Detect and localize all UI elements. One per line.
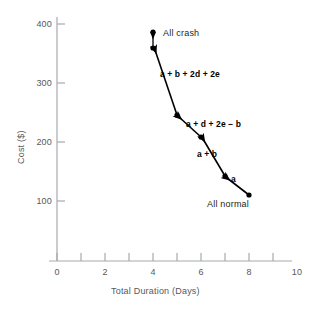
y-axis-title: Cost ($): [16, 130, 26, 164]
y-tick-label-200: 200: [26, 137, 52, 147]
cost-vs-duration-chart: 400 300 200 100 0 2 4 6 8 10 Cost ($) To…: [0, 0, 313, 312]
marker-p4: [222, 173, 227, 178]
annotation-all-normal: All normal: [207, 199, 249, 209]
axis-lines: [49, 17, 292, 261]
marker-p3: [198, 134, 203, 139]
y-tick-label-100: 100: [26, 196, 52, 206]
marker-p2: [174, 112, 179, 117]
marker-all-normal: [246, 192, 251, 197]
annotation-all-crash: All crash: [163, 28, 199, 38]
x-tick-label-6: 6: [191, 267, 211, 277]
annotation-segment-3: a + b: [197, 149, 217, 159]
x-tick-label-2: 2: [95, 267, 115, 277]
x-tick-label-0: 0: [47, 267, 67, 277]
x-tick-label-10: 10: [287, 267, 307, 277]
x-axis-ticks: [57, 253, 273, 261]
x-axis-title: Total Duration (Days): [111, 286, 200, 296]
marker-all-crash: [150, 29, 155, 34]
annotation-segment-2: a + d + 2e − b: [186, 119, 241, 129]
y-tick-label-400: 400: [26, 19, 52, 29]
y-tick-label-300: 300: [26, 78, 52, 88]
x-tick-label-8: 8: [239, 267, 259, 277]
plot-area: [0, 0, 313, 312]
annotation-segment-1: a + b + 2d + 2e: [160, 69, 220, 79]
y-axis-ticks: [57, 24, 65, 201]
marker-p1: [150, 45, 155, 50]
x-tick-label-4: 4: [143, 267, 163, 277]
annotation-segment-4: a: [231, 174, 236, 184]
data-markers: [150, 29, 251, 197]
